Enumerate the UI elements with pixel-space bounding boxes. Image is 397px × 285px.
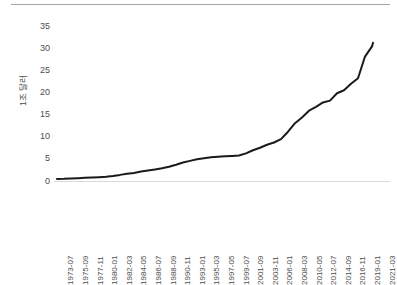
debt-series-line xyxy=(57,43,373,179)
x-tick-label: 2006-01 xyxy=(284,185,295,235)
x-tick-label: 1986-07 xyxy=(153,185,164,235)
x-axis-tick-labels: 1973-071975-091977-111980-011982-031984-… xyxy=(54,183,390,241)
x-tick-label: 2010-05 xyxy=(314,185,325,235)
plot-area xyxy=(54,20,390,182)
x-tick-label: 1988-09 xyxy=(168,185,179,235)
x-tick-label: 1999-07 xyxy=(241,185,252,235)
zero-baseline xyxy=(54,181,390,182)
x-tick-label: 1977-11 xyxy=(95,185,106,235)
y-tick-label: 5 xyxy=(28,154,50,163)
x-tick-label: 1993-01 xyxy=(197,185,208,235)
x-tick-label: 1995-03 xyxy=(211,185,222,235)
y-tick-label: 10 xyxy=(28,132,50,141)
y-tick-label: 20 xyxy=(28,88,50,97)
x-tick-label: 2003-11 xyxy=(270,185,281,235)
x-tick-label: 1973-07 xyxy=(65,185,76,235)
y-tick-label: 0 xyxy=(28,177,50,186)
y-axis-tick-labels: 05101520253035 xyxy=(28,0,50,241)
y-tick-label: 30 xyxy=(28,44,50,53)
x-tick-label: 1980-01 xyxy=(109,185,120,235)
y-tick-label: 25 xyxy=(28,66,50,75)
line-chart-svg xyxy=(54,20,390,182)
x-tick-label: 1997-05 xyxy=(226,185,237,235)
x-tick-label: 2014-09 xyxy=(343,185,354,235)
x-tick-label: 1982-03 xyxy=(124,185,135,235)
x-tick-label: 2001-09 xyxy=(255,185,266,235)
x-tick-label: 2008-03 xyxy=(299,185,310,235)
y-tick-label: 15 xyxy=(28,110,50,119)
x-tick-label: 2021-03 xyxy=(387,185,397,235)
y-tick-label: 35 xyxy=(28,22,50,31)
x-tick-label: 2016-11 xyxy=(357,185,368,235)
x-tick-label: 1990-11 xyxy=(182,185,193,235)
x-tick-label: 2019-01 xyxy=(372,185,383,235)
x-tick-label: 1984-05 xyxy=(138,185,149,235)
x-tick-label: 1975-09 xyxy=(80,185,91,235)
x-tick-label: 2012-07 xyxy=(328,185,339,235)
top-divider-rule xyxy=(11,4,390,5)
